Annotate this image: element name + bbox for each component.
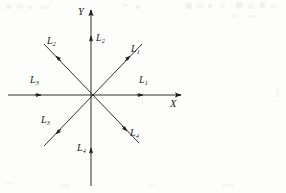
vector-L1-horizontal-label: L1 <box>139 75 148 86</box>
vector-L3-horizontal-label-text: L <box>30 74 36 85</box>
vector-L1-horizontal-label-text: L <box>139 74 145 85</box>
y-axis-label: Y <box>78 7 84 18</box>
vector-L3-horizontal-label-subscript: 3 <box>36 79 39 86</box>
vector-L4-diagonal-label-subscript: 4 <box>136 132 139 139</box>
vector-L1-diagonal-label-text: L <box>131 43 137 54</box>
vector-L2-vertical-label-subscript: 2 <box>102 37 105 44</box>
vector-L3-diagonal-arrowhead <box>56 129 61 134</box>
vector-L1-horizontal-label-subscript: 1 <box>145 79 148 86</box>
vector-L3-diagonal-label-subscript: 3 <box>47 119 50 126</box>
vector-L2-diagonal-label-text: L <box>47 35 53 46</box>
vector-L1-diagonal-label: L1 <box>131 44 140 55</box>
vector-L4-diagonal-label: L4 <box>130 128 139 139</box>
x-axis-label: X <box>170 99 176 110</box>
vector-L4-vertical-label-text: L <box>77 142 83 153</box>
vector-L4-diagonal-label-text: L <box>130 127 136 138</box>
vector-L3-horizontal-label: L3 <box>30 75 39 86</box>
vector-L2-vertical-label: L2 <box>96 33 105 44</box>
vector-L4-vertical-label-subscript: 4 <box>83 147 86 154</box>
vector-L2-vertical-label-text: L <box>96 32 102 43</box>
vector-L1-diagonal-label-subscript: 1 <box>137 48 140 55</box>
vector-L3-diagonal-label: L3 <box>41 115 50 126</box>
vector-L3-diagonal-label-text: L <box>41 114 47 125</box>
vector-L2-diagonal-label: L2 <box>47 36 56 47</box>
figure-canvas: L2 L2 L1 L3 L1 L3 L4 L4 Y X <box>0 0 286 193</box>
vector-L4-diagonal-arrowhead <box>122 126 127 131</box>
vector-L4-vertical-label: L4 <box>77 143 86 154</box>
vector-L1-diagonal-arrowhead <box>125 56 130 61</box>
vector-L2-diagonal-label-subscript: 2 <box>53 40 56 47</box>
vector-diagram <box>0 0 286 193</box>
vector-L2-diagonal-arrowhead <box>56 56 61 61</box>
